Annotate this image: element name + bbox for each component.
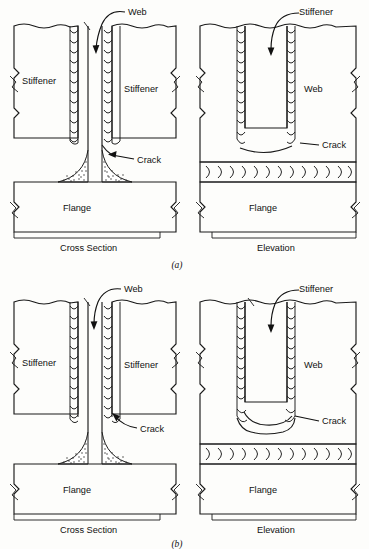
stiffener-right-outline-b: [112, 300, 176, 414]
label-web-b-cs: Web: [124, 284, 143, 294]
label-web-a-cs: Web: [128, 7, 147, 17]
label-web-a-el: Web: [304, 84, 323, 94]
label-flange-b-cs: Flange: [63, 485, 91, 495]
label-stiffener-b-el: Stiffener: [299, 284, 333, 294]
weld-band-outline-b: [200, 444, 356, 464]
web-tick-b-cs: [84, 298, 90, 306]
flange-outline-a-el: [200, 182, 356, 232]
label-crack-a-cs: Crack: [137, 155, 161, 165]
caption-rule-b-cs: [14, 514, 160, 520]
label-crack-b-cs: Crack: [140, 424, 164, 434]
stiffener-left-outline-b: [14, 300, 78, 414]
caption-cross-section-a: Cross Section: [60, 243, 117, 253]
figure-panel-b: Stiffener Stiffener Flange Web Crack: [0, 272, 369, 549]
label-stiffener-left: Stiffener: [22, 76, 56, 86]
panel-a-drawing: Stiffener Stiffener Flange Web Crack: [0, 0, 369, 272]
crack-line-a-cs: [102, 145, 112, 155]
panel-a-elevation: Stiffener Web Crack Flange: [196, 7, 360, 232]
leader-crack-b-el: [295, 416, 319, 421]
flange-outline-b-el: [200, 464, 356, 514]
stiffener-right-outline: [112, 24, 176, 138]
label-stiffener-left-b: Stiffener: [22, 358, 56, 368]
panel-a-cross-section: Stiffener Stiffener Flange Web Crack: [10, 7, 180, 232]
arrowhead-stiffener-a-el: [268, 47, 275, 56]
caption-elevation-b: Elevation: [257, 525, 295, 535]
fillet-weld-left-b: [58, 432, 88, 464]
arrowhead-web-b-cs: [91, 321, 98, 330]
weld-bead-column-left: [70, 26, 78, 144]
arrowhead-web-a-cs: [93, 45, 100, 54]
label-web-b-el: Web: [304, 360, 323, 370]
caption-rule-b-el: [212, 514, 356, 520]
label-crack-b-el: Crack: [322, 416, 346, 426]
stiffener-outline-a-el: [245, 26, 287, 128]
arrowhead-crack-a-cs: [108, 151, 117, 158]
panel-caption-b: (b): [171, 539, 182, 549]
label-flange-a-el: Flange: [249, 203, 277, 213]
flange-outline-b-cs: [14, 464, 176, 514]
fillet-weld-right-b: [102, 432, 132, 464]
leader-crack-a-el: [300, 143, 319, 145]
weld-bead-column-left-b: [70, 302, 78, 423]
arrowhead-stiffener-b-el: [268, 324, 275, 333]
caption-cross-section-b: Cross Section: [60, 525, 117, 535]
weld-bead-column-right: [104, 26, 120, 144]
panel-b-drawing: Stiffener Stiffener Flange Web Crack: [0, 272, 369, 549]
fillet-weld-left: [58, 150, 88, 182]
weld-band-beads-a: [206, 166, 352, 178]
leader-web-a-cs: [96, 12, 125, 50]
panel-caption-a: (a): [171, 260, 182, 271]
weld-band-beads-b: [206, 448, 352, 460]
stiffener-tick-b-el: [248, 298, 254, 306]
panel-b-cross-section: Stiffener Stiffener Flange Web Crack: [10, 284, 180, 514]
weld-beads-a-el-left: [237, 26, 245, 143]
stiffener-outline-b-el: [245, 302, 287, 402]
caption-rule-a-cs: [14, 232, 160, 238]
flange-outline-a-cs: [14, 182, 176, 232]
crack-line-a-el: [240, 146, 292, 153]
web-tick-a-cs: [84, 22, 90, 30]
crack-line-b-el: [244, 412, 292, 425]
label-stiffener-right-b: Stiffener: [124, 360, 158, 370]
label-flange-a-cs: Flange: [63, 203, 91, 213]
panel-b-elevation: Stiffener Web Crack Flange: [196, 284, 360, 514]
fillet-weld-right: [102, 150, 132, 182]
weld-band-outline-a: [200, 162, 356, 182]
figure-panel-a: Stiffener Stiffener Flange Web Crack: [0, 0, 369, 272]
weld-beads-a-el-right: [287, 26, 295, 143]
label-stiffener-a-el: Stiffener: [299, 7, 333, 17]
label-stiffener-right: Stiffener: [124, 84, 158, 94]
weld-bead-column-right-b: [104, 302, 120, 423]
label-flange-b-el: Flange: [249, 485, 277, 495]
caption-rule-a-el: [212, 232, 356, 238]
label-crack-a-el: Crack: [322, 140, 346, 150]
caption-elevation-a: Elevation: [257, 243, 295, 253]
